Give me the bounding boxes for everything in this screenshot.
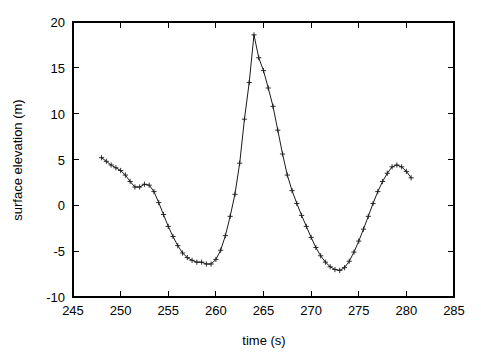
chart-background xyxy=(0,0,481,354)
x-tick-label: 280 xyxy=(396,303,418,318)
line-chart: 245250255260265270275280285 -10-50510152… xyxy=(0,0,481,354)
x-axis-tick-labels: 245250255260265270275280285 xyxy=(62,303,465,318)
y-tick-label: -10 xyxy=(46,290,65,305)
x-tick-label: 265 xyxy=(253,303,275,318)
x-tick-label: 270 xyxy=(300,303,322,318)
chart-figure: 245250255260265270275280285 -10-50510152… xyxy=(0,0,481,354)
x-tick-label: 250 xyxy=(110,303,132,318)
y-tick-label: 15 xyxy=(51,61,65,76)
y-tick-label: 5 xyxy=(58,153,65,168)
x-tick-label: 275 xyxy=(348,303,370,318)
x-tick-label: 260 xyxy=(205,303,227,318)
y-tick-label: 20 xyxy=(51,15,65,30)
x-tick-label: 255 xyxy=(157,303,179,318)
x-tick-label: 285 xyxy=(443,303,465,318)
x-tick-label: 245 xyxy=(62,303,84,318)
y-tick-label: -5 xyxy=(53,244,65,259)
y-axis-title: surface elevation (m) xyxy=(10,99,25,220)
x-axis-title: time (s) xyxy=(242,333,285,348)
y-tick-label: 10 xyxy=(51,107,65,122)
y-tick-label: 0 xyxy=(58,198,65,213)
